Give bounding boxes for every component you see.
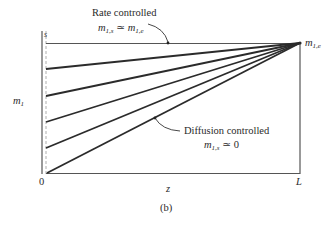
- rate-pointer-arc: [148, 24, 168, 42]
- origin-label: 0: [39, 176, 44, 187]
- x-end-label: L: [295, 176, 302, 187]
- diagram-canvas: s Rate controlled m1,s ≃ m1,e m1,e m1 Di…: [0, 0, 334, 227]
- profile-line-diffusion: [47, 43, 300, 173]
- profile-line-4: [46, 43, 300, 122]
- diffusion-controlled-equation: m1,s ≃ 0: [204, 139, 239, 152]
- profile-line-3: [46, 43, 300, 96]
- profile-line-2: [46, 43, 300, 69]
- convergence-point: [298, 41, 301, 44]
- diffusion-controlled-title: Diffusion controlled: [184, 125, 270, 136]
- y-axis-label: m1: [13, 95, 24, 108]
- profile-lines: [46, 43, 300, 173]
- figure-caption: (b): [160, 202, 173, 214]
- diffusion-pointer-arc: [155, 118, 180, 131]
- x-axis-label: z: [165, 183, 170, 194]
- surface-label: s: [44, 30, 47, 39]
- rate-pointer-dot: [167, 42, 170, 45]
- rate-controlled-equation: m1,s ≃ m1,e: [98, 22, 144, 35]
- rate-controlled-title: Rate controlled: [92, 7, 157, 18]
- equilibrium-label: m1,e: [305, 37, 321, 50]
